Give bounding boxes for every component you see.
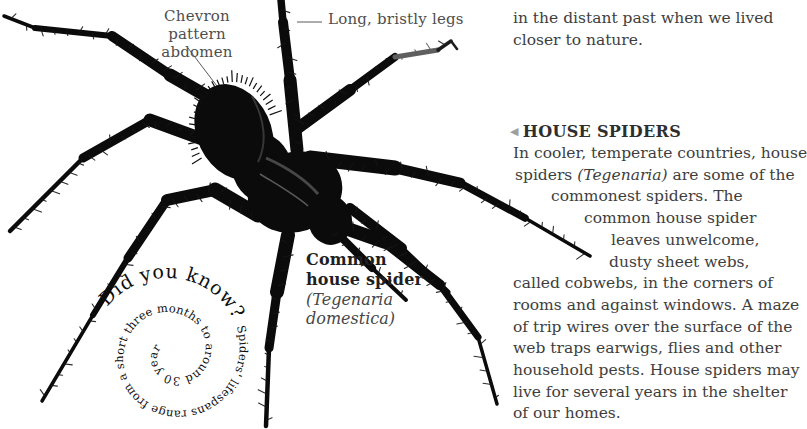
label-long-bristly-legs: Long, bristly legs — [328, 10, 464, 28]
text-line: household pests. House spiders may — [513, 360, 807, 382]
caption-line: Common — [306, 250, 423, 270]
label-line: Chevron pattern — [138, 7, 256, 43]
text-line: common house spider — [513, 208, 807, 230]
latin-name: (Tegenaria) — [577, 166, 667, 184]
text-line: called cobwebs, in the corners of — [513, 273, 807, 295]
text-line: of trip wires over the surface of the — [513, 317, 807, 339]
text-line: of our homes. — [513, 403, 807, 425]
caption-common-house-spider: Common house spider (Tegenaria domestica… — [306, 250, 423, 329]
text-line: in the distant past when we lived — [513, 8, 773, 30]
text-line: leaves unwelcome, — [513, 230, 807, 252]
heading-house-spiders: ◀HOUSE SPIDERS — [510, 121, 681, 143]
caption-line: house spider — [306, 270, 423, 290]
left-arrow-icon: ◀ — [510, 125, 519, 138]
caption-line: domestica) — [306, 309, 423, 329]
text-line: dusty sheet webs, — [513, 252, 807, 274]
label-chevron-abdomen: Chevron pattern abdomen — [138, 7, 256, 61]
text-line: live for several years in the shelter — [513, 382, 807, 404]
label-line: abdomen — [138, 43, 256, 61]
text-line: web traps earwigs, flies and other — [513, 338, 807, 360]
heading-text: HOUSE SPIDERS — [523, 122, 681, 141]
text-line: In cooler, temperate countries, house — [513, 143, 807, 165]
text-line: closer to nature. — [513, 30, 773, 52]
para-intro: in the distant past when we lived closer… — [513, 8, 773, 51]
text-line: commonest spiders. The — [513, 186, 807, 208]
para-house-spiders: In cooler, temperate countries, house sp… — [513, 143, 807, 425]
text-line: rooms and against windows. A maze — [513, 295, 807, 317]
caption-line: (Tegenaria — [306, 290, 423, 310]
text-line: spiders (Tegenaria) are some of the — [513, 165, 807, 187]
